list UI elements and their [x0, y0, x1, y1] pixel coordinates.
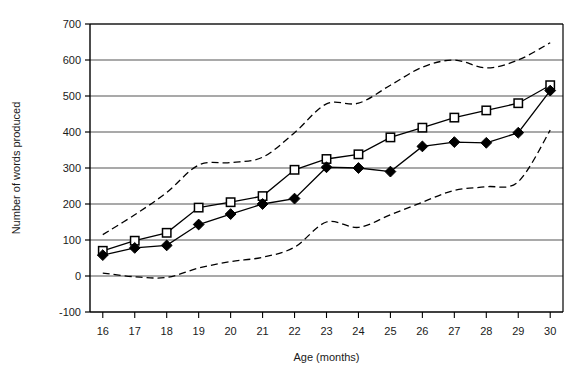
x-tick-label: 23: [320, 325, 332, 337]
marker-open-square: [514, 99, 522, 107]
marker-open-square: [450, 113, 458, 121]
x-tick-label: 19: [193, 325, 205, 337]
marker-filled-diamond: [513, 127, 524, 138]
y-axis-title: Number of words produced: [10, 102, 22, 235]
y-tick-label: 0: [75, 270, 81, 282]
marker-filled-diamond: [193, 219, 204, 230]
marker-filled-diamond: [449, 137, 460, 148]
marker-filled-diamond: [161, 240, 172, 251]
y-tick-label: 200: [63, 198, 81, 210]
marker-open-square: [194, 203, 202, 211]
x-tick-label: 17: [129, 325, 141, 337]
series-line-upper-band: [103, 43, 550, 235]
y-tick-label: 100: [63, 234, 81, 246]
marker-filled-diamond: [481, 137, 492, 148]
y-tick-label: 700: [63, 18, 81, 30]
y-tick-label: 300: [63, 162, 81, 174]
marker-open-square: [163, 229, 171, 237]
marker-open-square: [482, 106, 490, 114]
x-tick-label: 20: [224, 325, 236, 337]
x-tick-label: 22: [288, 325, 300, 337]
marker-open-square: [386, 133, 394, 141]
y-tick-label: 500: [63, 90, 81, 102]
marker-filled-diamond: [225, 209, 236, 220]
marker-open-square: [226, 198, 234, 206]
x-tick-label: 28: [480, 325, 492, 337]
x-axis-title: Age (months): [293, 351, 359, 363]
x-tick-label: 27: [448, 325, 460, 337]
x-tick-label: 30: [544, 325, 556, 337]
x-tick-label: 26: [416, 325, 428, 337]
x-tick-label: 25: [384, 325, 396, 337]
y-tick-label: 600: [63, 54, 81, 66]
y-tick-label: 400: [63, 126, 81, 138]
x-tick-label: 16: [97, 325, 109, 337]
x-tick-label: 21: [256, 325, 268, 337]
marker-open-square: [354, 150, 362, 158]
marker-open-square: [290, 166, 298, 174]
x-tick-label: 24: [352, 325, 364, 337]
marker-filled-diamond: [353, 163, 364, 174]
y-tick-label: -100: [59, 306, 81, 318]
marker-open-square: [418, 123, 426, 131]
x-tick-label: 18: [161, 325, 173, 337]
chart-figure: -100010020030040050060070016171819202122…: [0, 0, 576, 374]
x-tick-label: 29: [512, 325, 524, 337]
chart-canvas: -100010020030040050060070016171819202122…: [0, 0, 576, 374]
